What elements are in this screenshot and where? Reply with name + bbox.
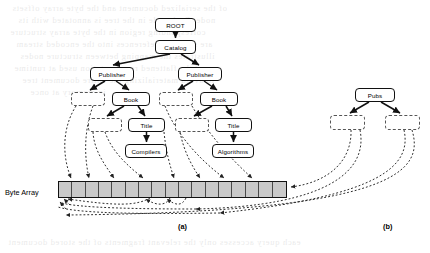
node-publisher2[interactable]: Publisher: [178, 67, 222, 81]
figure-container: of the serialized document and the byte …: [0, 0, 430, 253]
reference-arcs-a: [65, 106, 252, 178]
node-label: Book: [124, 96, 139, 103]
node-book1[interactable]: Book: [112, 92, 150, 106]
node-root[interactable]: ROOT: [155, 18, 196, 32]
node-catalog[interactable]: Catalog: [155, 40, 196, 54]
byte-array-cell[interactable]: [99, 182, 112, 197]
node-title1[interactable]: Title: [128, 118, 165, 132]
byte-array-cell[interactable]: [126, 182, 139, 197]
node-label: Publisher: [98, 71, 125, 78]
node-label: Pubs: [368, 92, 383, 99]
node-label: Catalog: [164, 44, 186, 51]
return-arrowheads: [60, 199, 70, 209]
node-label: Title: [227, 122, 239, 129]
node-label: Title: [140, 122, 152, 129]
byte-array-cell[interactable]: [232, 182, 245, 197]
byte-array[interactable]: [58, 181, 287, 198]
caption-a: (a): [178, 222, 187, 231]
byte-array-cell[interactable]: [246, 182, 259, 197]
byte-array-cell[interactable]: [259, 182, 272, 197]
byte-array-cell[interactable]: [72, 182, 85, 197]
tree-edges-b: [350, 102, 400, 113]
node-compilers[interactable]: Compilers: [125, 144, 167, 158]
byte-array-cell[interactable]: [206, 182, 219, 197]
byte-array-cell[interactable]: [273, 182, 286, 197]
node-publisher1[interactable]: Publisher: [90, 67, 134, 81]
byte-array-label: Byte Array: [5, 188, 39, 197]
node-placeholder-b1[interactable]: [330, 115, 365, 130]
node-title2[interactable]: Title: [215, 118, 252, 132]
byte-array-cell[interactable]: [166, 182, 179, 197]
byte-array-cell[interactable]: [219, 182, 232, 197]
backref-arcs-a: [68, 198, 186, 204]
node-pubs[interactable]: Pubs: [355, 88, 395, 102]
node-placeholder-a1[interactable]: [71, 92, 105, 106]
node-placeholder-a4[interactable]: [175, 118, 209, 132]
byte-array-cell[interactable]: [179, 182, 192, 197]
caption-b: (b): [383, 222, 392, 231]
return-paths: [58, 203, 220, 213]
node-label: Publisher: [186, 71, 213, 78]
byte-array-cell[interactable]: [59, 182, 72, 197]
byte-array-cell[interactable]: [152, 182, 165, 197]
reference-arcs-b: [66, 130, 414, 215]
node-label: Book: [212, 96, 227, 103]
byte-array-cell[interactable]: [192, 182, 205, 197]
node-label: Algorithms: [218, 148, 249, 155]
node-label: ROOT: [166, 22, 184, 29]
node-algorithms[interactable]: Algorithms: [212, 144, 254, 158]
byte-array-cell[interactable]: [139, 182, 152, 197]
node-book2[interactable]: Book: [200, 92, 238, 106]
node-label: Compilers: [131, 148, 160, 155]
node-placeholder-a3[interactable]: [88, 118, 122, 132]
node-placeholder-a2[interactable]: [159, 92, 193, 106]
node-placeholder-b2[interactable]: [385, 115, 420, 130]
byte-array-cell[interactable]: [86, 182, 99, 197]
byte-array-cell[interactable]: [112, 182, 125, 197]
